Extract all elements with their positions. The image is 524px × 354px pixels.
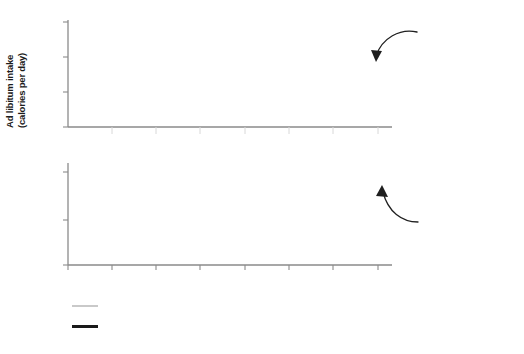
legend-swatch-unprocessed [72,325,98,328]
legend-item-unprocessed [72,316,107,336]
top-chart-ylabel-line2: (calories per day) [16,53,27,128]
legend-item-ultra-processed [72,296,107,316]
top-chart-group: Ad libitum intake (calories per day) [4,20,417,134]
top-annotation-arrow [376,31,417,56]
top-chart-ylabel-line1: Ad libitum intake [4,55,15,128]
bottom-annotation-arrow [383,192,418,222]
chart-legend [72,296,107,336]
legend-swatch-ultra-processed [72,305,98,307]
bottom-chart-group [63,163,418,270]
figure-panel: Ad libitum intake (calories per day) [0,0,524,354]
bottom-annotation-arrowhead [376,185,388,197]
top-annotation-arrowhead [371,50,382,62]
